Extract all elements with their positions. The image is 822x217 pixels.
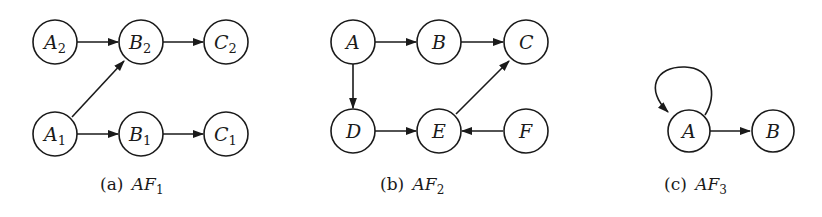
edge-A-A-selfloop	[655, 67, 711, 115]
node-F: F	[504, 109, 548, 153]
node-D: D	[331, 109, 375, 153]
figure-a: A2 B2 C2 A1 B1 C1 (a) AF1	[33, 20, 248, 197]
node-A: A	[668, 110, 710, 152]
svg-text:F: F	[518, 120, 533, 142]
node-C2: C2	[204, 20, 248, 64]
edge-E-C	[456, 61, 509, 114]
svg-text:D: D	[345, 120, 361, 142]
node-C1: C1	[204, 112, 248, 156]
node-B: B	[752, 110, 794, 152]
svg-text:B: B	[431, 31, 446, 53]
node-A1: A1	[33, 112, 77, 156]
caption-c: (c) AF3	[664, 174, 727, 197]
node-A2: A2	[33, 20, 77, 64]
edge-A1-B2	[72, 61, 124, 117]
svg-text:A: A	[680, 120, 696, 142]
figure-c: A B (c) AF3	[655, 67, 794, 197]
node-C: C	[504, 20, 548, 64]
node-B: B	[417, 20, 461, 64]
node-E: E	[417, 109, 461, 153]
figure-b: A B C D E F (b) AF2	[331, 20, 548, 197]
caption-b: (b) AF2	[380, 174, 444, 197]
svg-text:C: C	[519, 31, 534, 53]
caption-a: (a) AF1	[100, 174, 164, 197]
argumentation-frameworks-figure: A2 B2 C2 A1 B1 C1 (a) AF1	[0, 0, 822, 217]
svg-text:E: E	[431, 120, 446, 142]
node-B2: B2	[119, 20, 163, 64]
node-A: A	[331, 20, 375, 64]
node-B1: B1	[119, 112, 163, 156]
svg-text:A: A	[344, 31, 360, 53]
svg-text:B: B	[765, 120, 780, 142]
